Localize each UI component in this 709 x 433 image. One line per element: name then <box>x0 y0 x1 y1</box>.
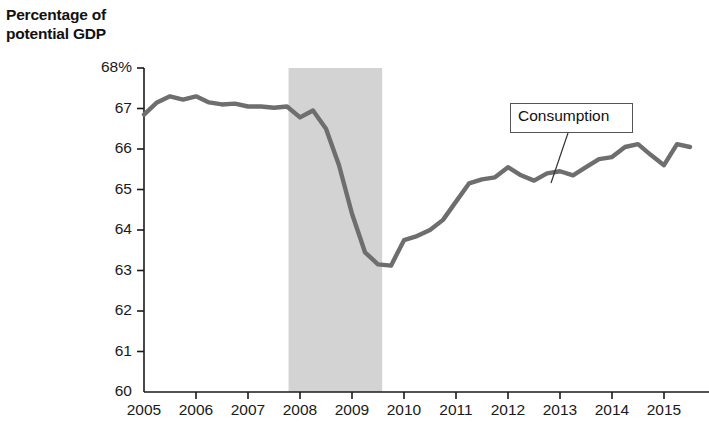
x-axis-tick-label: 2010 <box>378 401 430 419</box>
annotation-leader-layer <box>551 133 568 183</box>
x-axis-tick-label: 2014 <box>586 401 638 419</box>
x-axis-tick-label: 2011 <box>430 401 482 419</box>
x-axis-tick-label: 2013 <box>534 401 586 419</box>
x-axis-tick-label: 2005 <box>118 401 170 419</box>
y-axis-tick-label: 61 <box>76 342 132 360</box>
x-axis-tick-label: 2007 <box>222 401 274 419</box>
y-axis-tick-label: 65 <box>76 180 132 198</box>
x-axis-tick-label: 2006 <box>170 401 222 419</box>
chart-container: Percentage of potential GDP 68%676665646… <box>0 0 709 433</box>
y-axis-tick-label: 64 <box>76 220 132 238</box>
y-axis-tick-label: 63 <box>76 261 132 279</box>
y-axis-tick-label: 66 <box>76 139 132 157</box>
consumption-annotation-label: Consumption <box>510 103 633 133</box>
x-axis-tick-label: 2015 <box>638 401 690 419</box>
y-axis-tick-label: 62 <box>76 301 132 319</box>
y-axis-tick-label: 60 <box>76 382 132 400</box>
x-axis-tick-label: 2008 <box>274 401 326 419</box>
x-axis-tick-label: 2009 <box>326 401 378 419</box>
annotation-leader-line <box>551 133 568 183</box>
y-axis-tick-label: 68% <box>76 58 132 76</box>
y-axis-tick-label: 67 <box>76 99 132 117</box>
x-axis-tick-label: 2012 <box>482 401 534 419</box>
